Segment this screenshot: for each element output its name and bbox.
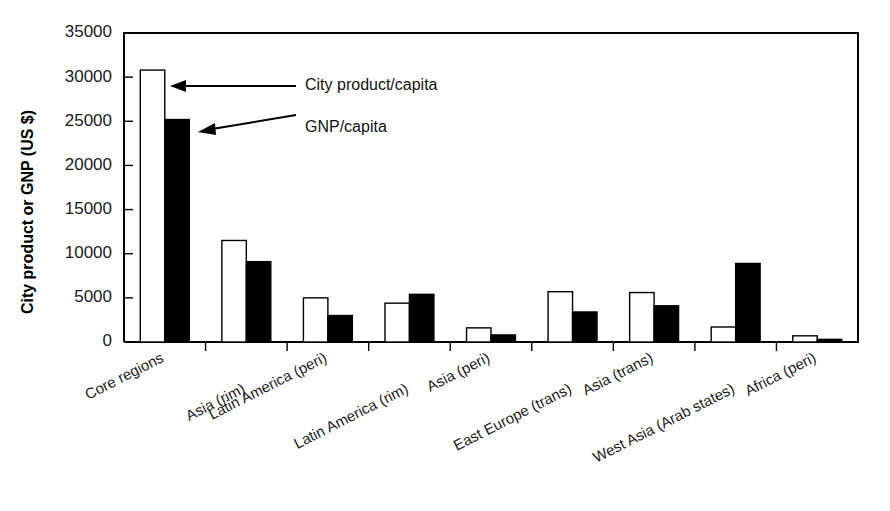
bar-gnp: [491, 335, 515, 342]
y-tick-label: 35000: [65, 22, 112, 41]
x-axis-category-label: Latin America (rim): [291, 380, 411, 452]
bar-gnp: [246, 262, 270, 342]
y-tick-label: 10000: [65, 243, 112, 262]
bar-city-product: [303, 298, 327, 342]
bar-city-product: [711, 327, 735, 342]
bar-city-product: [385, 303, 409, 342]
annotation-arrow-gnp: [198, 115, 296, 135]
y-tick-label: 15000: [65, 199, 112, 218]
bar-city-product: [630, 293, 654, 342]
bar-gnp: [736, 263, 760, 342]
bar-city-product: [140, 70, 164, 342]
x-axis-category-label: Latin America (peri): [206, 349, 330, 423]
x-axis-category-label: Asia (trans): [579, 349, 655, 399]
annotation-label-city-product: City product/capita: [305, 76, 438, 93]
y-tick-label: 5000: [74, 287, 112, 306]
y-axis-title: City product or GNP (US $): [19, 110, 36, 314]
bar-gnp: [165, 120, 189, 342]
x-axis-category-labels: Core regionsAsia (rim)Latin America (per…: [82, 349, 819, 466]
annotation-label-gnp: GNP/capita: [305, 118, 387, 135]
bar-chart-canvas: 05000100001500020000250003000035000 City…: [0, 0, 890, 511]
annotation-arrow-city-product: [170, 80, 296, 92]
bar-gnp: [654, 306, 678, 342]
y-axis: 05000100001500020000250003000035000: [65, 22, 133, 350]
x-axis-category-label: Asia (peri): [424, 349, 493, 395]
bar-gnp: [328, 316, 352, 342]
bar-gnp: [409, 294, 433, 342]
bar-city-product: [222, 240, 246, 342]
x-axis-category-label: West Asia (Arab states): [590, 380, 737, 466]
bar-city-product: [467, 328, 491, 342]
y-tick-label: 25000: [65, 111, 112, 130]
y-tick-label: 0: [103, 331, 112, 350]
x-axis-ticks: [206, 342, 777, 351]
bar-series-group: [140, 70, 841, 342]
bar-gnp: [817, 339, 841, 342]
x-axis-category-label: East Europe (trans): [450, 380, 574, 454]
y-tick-label: 20000: [65, 155, 112, 174]
x-axis-category-label: Core regions: [82, 349, 166, 403]
bar-city-product: [793, 336, 817, 342]
y-tick-label: 30000: [65, 67, 112, 86]
bar-gnp: [573, 312, 597, 342]
bar-city-product: [548, 292, 572, 342]
chart-figure: 05000100001500020000250003000035000 City…: [0, 0, 890, 511]
x-axis-category-label: Africa (peri): [742, 349, 819, 399]
